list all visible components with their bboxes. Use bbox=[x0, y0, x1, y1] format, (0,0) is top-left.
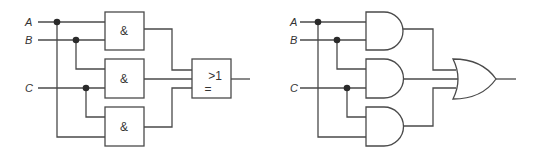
wire-c-branch bbox=[86, 88, 105, 117]
and-symbol-1: & bbox=[120, 24, 128, 38]
junction-dot-a bbox=[315, 19, 322, 26]
and-gate-2 bbox=[366, 59, 404, 98]
wire-and3-or bbox=[144, 88, 192, 127]
junction-dot-b bbox=[73, 37, 80, 44]
wire-and1-or bbox=[403, 29, 456, 70]
wire-b-branch bbox=[337, 40, 366, 69]
wire-b-branch bbox=[76, 40, 105, 69]
junction-dot-c bbox=[83, 85, 90, 92]
input-label-a: A bbox=[24, 16, 32, 28]
wire-a-branch bbox=[57, 22, 105, 137]
or-symbol-top: >1 bbox=[208, 69, 222, 83]
and-symbol-3: & bbox=[120, 120, 128, 134]
junction-dot-a bbox=[54, 19, 61, 26]
wire-a-branch bbox=[318, 22, 366, 137]
iec-circuit: A B C & & & >1 = bbox=[24, 12, 250, 146]
junction-dot-c bbox=[344, 85, 351, 92]
or-symbol-bottom: = bbox=[204, 82, 211, 96]
ansi-circuit: A B C bbox=[289, 12, 516, 146]
input-label-b: B bbox=[25, 34, 32, 46]
and-gate-3 bbox=[366, 107, 404, 146]
input-label-c: C bbox=[290, 82, 298, 94]
wire-and3-or bbox=[404, 88, 456, 126]
and-symbol-2: & bbox=[120, 72, 128, 86]
junction-dot-b bbox=[334, 37, 341, 44]
or-gate bbox=[453, 59, 496, 99]
wire-c-branch bbox=[347, 88, 366, 117]
input-label-b: B bbox=[290, 34, 297, 46]
logic-diagrams: A B C & & & >1 = A B C bbox=[0, 0, 541, 156]
input-label-a: A bbox=[289, 16, 297, 28]
input-label-c: C bbox=[25, 82, 33, 94]
and-gate-1 bbox=[366, 12, 403, 50]
wire-and1-or bbox=[144, 29, 192, 70]
